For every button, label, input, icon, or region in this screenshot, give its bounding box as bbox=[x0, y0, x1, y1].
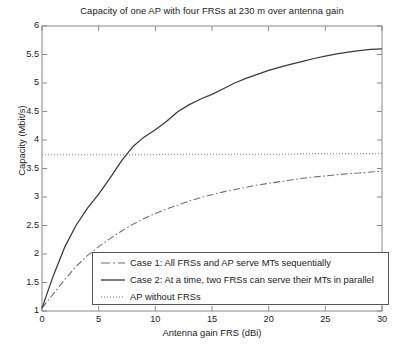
legend-item-ap-without-frss: AP without FRSs bbox=[93, 288, 388, 305]
series-line-3 bbox=[42, 154, 382, 155]
legend-item-case2: Case 2: At a time, two FRSs can serve th… bbox=[93, 271, 388, 288]
legend-swatch-case1 bbox=[100, 257, 126, 269]
legend-swatch-ap-without-frss bbox=[100, 291, 126, 303]
legend-label-case1: Case 1: All FRSs and AP serve MTs sequen… bbox=[130, 257, 331, 268]
legend-swatch-case2 bbox=[100, 274, 126, 286]
chart-figure: Capacity of one AP with four FRSs at 230… bbox=[0, 0, 407, 349]
legend-label-case2: Case 2: At a time, two FRSs can serve th… bbox=[130, 274, 374, 285]
legend-label-ap-without-frss: AP without FRSs bbox=[130, 291, 201, 302]
chart-legend: Case 1: All FRSs and AP serve MTs sequen… bbox=[92, 252, 389, 305]
legend-item-case1: Case 1: All FRSs and AP serve MTs sequen… bbox=[93, 254, 388, 271]
